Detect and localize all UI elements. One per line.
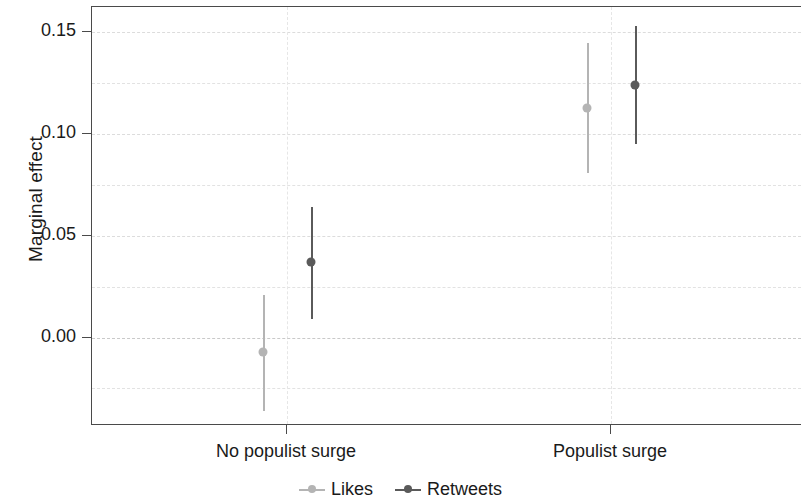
gridline-major <box>92 134 801 135</box>
gridline-vertical <box>611 7 612 424</box>
gridline-minor <box>92 388 801 389</box>
gridline-major <box>92 236 801 237</box>
gridline-minor <box>92 185 801 186</box>
x-axis-tick-label: No populist surge <box>216 441 356 462</box>
gridline-vertical <box>287 7 288 424</box>
point-estimate-dot <box>583 103 592 112</box>
gridline-major <box>92 32 801 33</box>
y-axis-tick-label: 0.10 <box>16 122 76 143</box>
legend-marker-icon <box>395 484 421 495</box>
legend-label: Retweets <box>427 479 502 500</box>
legend-marker-icon <box>299 484 325 495</box>
y-axis-tick-label: 0.05 <box>16 224 76 245</box>
legend-item: Retweets <box>395 479 502 500</box>
legend: LikesRetweets <box>0 476 801 502</box>
y-axis-tick <box>82 133 91 134</box>
y-axis-tick-label: 0.00 <box>16 326 76 347</box>
plot-area <box>91 6 801 425</box>
point-estimate-dot <box>631 81 640 90</box>
legend-label: Likes <box>331 479 373 500</box>
x-axis-tick <box>610 425 611 434</box>
marginal-effect-plot: Marginal effect 0.150.100.050.00 No popu… <box>0 0 801 503</box>
y-axis-tick-label: 0.15 <box>16 20 76 41</box>
gridline-minor <box>92 83 801 84</box>
y-axis-tick <box>82 31 91 32</box>
x-axis-tick <box>286 425 287 434</box>
x-axis-tick-label: Populist surge <box>553 441 667 462</box>
point-estimate-dot <box>259 347 268 356</box>
legend-item: Likes <box>299 479 373 500</box>
y-axis-tick <box>82 337 91 338</box>
point-estimate-dot <box>307 258 316 267</box>
y-axis-title: Marginal effect <box>25 79 47 319</box>
zero-reference-line <box>92 338 801 339</box>
gridline-minor <box>92 287 801 288</box>
y-axis-tick <box>82 235 91 236</box>
